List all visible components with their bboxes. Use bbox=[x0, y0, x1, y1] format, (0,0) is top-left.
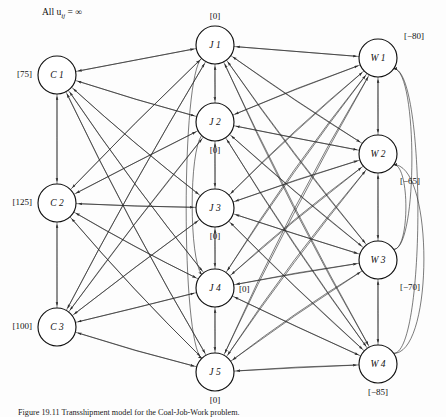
node-label-J4: J 4 bbox=[209, 283, 221, 293]
arc-J1-to-C1 bbox=[78, 49, 196, 72]
supply-label-C1: [75] bbox=[17, 69, 32, 79]
arc-W2-to-J1 bbox=[233, 57, 362, 143]
arc-J3-to-W2 bbox=[233, 161, 358, 202]
arc-J5-to-W2 bbox=[226, 171, 365, 356]
arc-W4-to-J3 bbox=[231, 223, 365, 351]
node-J3[interactable]: J 3[0] bbox=[196, 189, 234, 241]
supply-label-C2: [125] bbox=[13, 197, 33, 207]
supply-label-J1: [0] bbox=[210, 11, 221, 21]
node-W1[interactable]: W 1[−80] bbox=[359, 31, 424, 77]
arc-C3-to-J5 bbox=[75, 332, 194, 366]
node-W4[interactable]: W 4[−85] bbox=[359, 345, 397, 397]
node-label-W1: W 1 bbox=[370, 53, 385, 63]
node-W2[interactable]: W 2[−65] bbox=[359, 135, 420, 186]
node-label-W4: W 4 bbox=[370, 359, 385, 369]
arc-W4-to-J1 bbox=[225, 64, 370, 347]
network-flow-figure: All uij = ∞ C 1[75]C 2[125]C 3[100]J 1[0… bbox=[0, 0, 446, 417]
node-J2[interactable]: J 2[0] bbox=[196, 103, 234, 155]
node-label-W3: W 3 bbox=[370, 255, 385, 265]
arc-J5-to-W4 bbox=[234, 365, 356, 371]
node-label-J3: J 3 bbox=[209, 203, 221, 213]
node-label-C1: C 1 bbox=[50, 70, 63, 80]
arc-W3-to-J5 bbox=[233, 271, 362, 360]
arc-W1-to-J1 bbox=[237, 47, 360, 57]
arc-C1-to-J4 bbox=[68, 90, 202, 270]
network-graph-canvas: C 1[75]C 2[125]C 3[100]J 1[0]J 2[0]J 3[0… bbox=[0, 0, 446, 417]
arc-C1-to-J3 bbox=[72, 87, 199, 194]
node-label-C3: C 3 bbox=[50, 322, 64, 332]
node-label-J1: J 1 bbox=[209, 40, 220, 50]
arc-W3-to-J2 bbox=[232, 136, 364, 248]
node-C3[interactable]: C 3[100] bbox=[13, 308, 77, 346]
node-J5[interactable]: J 5[0] bbox=[196, 353, 234, 405]
arc-J1-to-C2 bbox=[72, 58, 201, 187]
arc-J2-to-C1 bbox=[78, 81, 197, 116]
node-C2[interactable]: C 2[125] bbox=[13, 184, 77, 222]
node-C1[interactable]: C 1[75] bbox=[17, 56, 76, 94]
supply-label-J4: [0] bbox=[239, 284, 250, 294]
arc-J5-to-C1 bbox=[67, 94, 206, 355]
node-J4[interactable]: J 4[0] bbox=[196, 269, 250, 307]
supply-label-J5: [0] bbox=[210, 395, 221, 405]
figure-caption: Figure 19.11 Transshipment model for the… bbox=[18, 408, 438, 417]
arc-layer bbox=[57, 47, 424, 372]
supply-label-W4: [−85] bbox=[368, 387, 388, 397]
node-label-J2: J 2 bbox=[209, 117, 221, 127]
supply-label-J3: [0] bbox=[210, 231, 221, 241]
arc-J5-to-C3 bbox=[78, 333, 197, 367]
arc-C2-to-J1 bbox=[70, 60, 199, 189]
arc-W4-to-J2 bbox=[227, 140, 367, 348]
arc-J2-to-W1 bbox=[233, 66, 358, 115]
supply-label-W1: [−80] bbox=[404, 31, 424, 41]
arc-J2-to-W3 bbox=[230, 134, 362, 246]
arc-C3-to-J2 bbox=[69, 139, 202, 312]
arc-J4-to-W2 bbox=[230, 168, 362, 276]
arc-C2-to-J5 bbox=[70, 217, 200, 356]
supply-label-W3: [−70] bbox=[400, 282, 420, 292]
arc-J4-to-W3 bbox=[234, 264, 357, 285]
node-J1[interactable]: J 1[0] bbox=[196, 11, 234, 64]
node-layer: C 1[75]C 2[125]C 3[100]J 1[0]J 2[0]J 3[0… bbox=[13, 11, 425, 405]
arc-J2-to-C3 bbox=[70, 137, 203, 310]
node-label-W2: W 2 bbox=[370, 149, 385, 159]
arc-W4-to-J4 bbox=[235, 297, 361, 356]
arc-J3-to-W1 bbox=[229, 73, 362, 196]
arc-J5-to-W1 bbox=[224, 77, 368, 355]
arc-J3-to-C2 bbox=[79, 204, 196, 208]
arc-J1-to-C3 bbox=[68, 62, 206, 309]
arc-J4-to-W1 bbox=[226, 76, 366, 273]
node-label-C2: C 2 bbox=[50, 198, 64, 208]
arc-C3-to-J3 bbox=[72, 221, 198, 316]
supply-label-J2: [0] bbox=[210, 145, 221, 155]
supply-label-C3: [100] bbox=[13, 321, 33, 331]
node-W3[interactable]: W 3[−70] bbox=[359, 241, 420, 292]
supply-label-W2: [−65] bbox=[400, 176, 420, 186]
node-label-J5: J 5 bbox=[209, 367, 221, 377]
arc-C1-to-J5 bbox=[66, 92, 205, 353]
arc-J4-to-C2 bbox=[76, 213, 198, 279]
arc-J5-to-W3 bbox=[231, 272, 361, 361]
